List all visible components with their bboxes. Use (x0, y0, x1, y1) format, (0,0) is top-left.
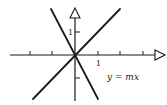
diagram-canvas: 1 1 y = mx (0, 0, 167, 105)
positive-slope-line (33, 9, 120, 99)
line-diagram: 1 1 y = mx (0, 0, 167, 105)
y-axis-arrow-icon (70, 8, 80, 18)
x-tick-label: 1 (96, 59, 101, 68)
y-tick-label: 1 (68, 28, 73, 37)
x-axis: 1 (10, 50, 165, 68)
x-axis-arrow-icon (155, 50, 165, 60)
equation-label: y = mx (106, 72, 139, 82)
